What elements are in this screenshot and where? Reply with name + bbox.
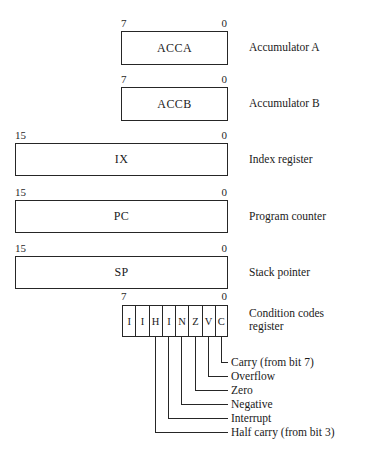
ccr-bit-1: V <box>202 305 215 337</box>
leader-stem-carry <box>221 337 222 362</box>
register-box-accb: ACCB <box>121 87 228 121</box>
flag-label-zero: Zero <box>231 384 253 396</box>
leader-arm-overflow <box>208 376 228 377</box>
leader-stem-interrupt <box>168 337 169 418</box>
flag-label-half-carry: Half carry (from bit 3) <box>231 426 334 438</box>
flag-label-overflow: Overflow <box>231 370 275 382</box>
leader-stem-half-carry <box>155 337 156 432</box>
ccr-bit-4: I <box>162 305 175 337</box>
register-description-pc: Program counter <box>249 210 326 223</box>
register-label-ix: IX <box>115 152 128 167</box>
leader-stem-zero <box>195 337 196 390</box>
flag-label-negative: Negative <box>231 398 273 410</box>
ix-lsb-label: 0 <box>207 130 227 141</box>
register-box-pc: PC <box>15 200 228 233</box>
accb-msb-label: 7 <box>121 74 141 85</box>
register-diagram: 7 0 ACCA Accumulator A 7 0 ACCB Accumula… <box>0 0 375 460</box>
acca-lsb-label: 0 <box>207 18 227 29</box>
ccr-lsb-label: 0 <box>207 291 227 302</box>
leader-arm-half-carry <box>155 432 228 433</box>
register-label-acca: ACCA <box>157 41 192 56</box>
register-box-acca: ACCA <box>121 31 228 65</box>
ccr-bit-2: Z <box>188 305 201 337</box>
condition-codes-register: I I H I N Z V C <box>122 305 228 337</box>
register-box-sp: SP <box>15 256 228 289</box>
register-box-ix: IX <box>15 143 228 176</box>
leader-stem-overflow <box>208 337 209 376</box>
ccr-msb-label: 7 <box>121 291 141 302</box>
register-description-acca: Accumulator A <box>249 41 320 54</box>
acca-msb-label: 7 <box>121 18 141 29</box>
leader-stem-negative <box>181 337 182 404</box>
ix-msb-label: 15 <box>15 130 39 141</box>
sp-msb-label: 15 <box>15 243 39 254</box>
pc-msb-label: 15 <box>15 187 39 198</box>
accb-lsb-label: 0 <box>207 74 227 85</box>
ccr-bit-0: C <box>215 305 228 337</box>
leader-arm-zero <box>195 390 228 391</box>
flag-label-interrupt: Interrupt <box>231 412 271 424</box>
register-label-sp: SP <box>114 265 128 280</box>
ccr-bit-7: I <box>122 305 135 337</box>
sp-lsb-label: 0 <box>207 243 227 254</box>
ccr-bit-5: H <box>149 305 162 337</box>
flag-label-carry: Carry (from bit 7) <box>231 356 314 368</box>
pc-lsb-label: 0 <box>207 187 227 198</box>
leader-arm-interrupt <box>168 418 228 419</box>
register-label-pc: PC <box>114 209 129 224</box>
ccr-bit-6: I <box>135 305 148 337</box>
register-description-sp: Stack pointer <box>249 266 310 279</box>
register-label-accb: ACCB <box>157 97 191 112</box>
register-description-ccr: Condition codes register <box>249 307 324 333</box>
register-description-accb: Accumulator B <box>249 97 320 110</box>
register-description-ix: Index register <box>249 153 313 166</box>
ccr-bit-3: N <box>175 305 188 337</box>
leader-arm-carry <box>221 362 228 363</box>
leader-arm-negative <box>181 404 228 405</box>
